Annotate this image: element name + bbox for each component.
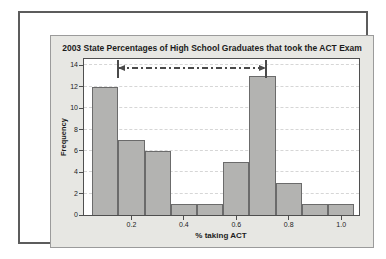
y-tick-label: 2: [57, 190, 78, 198]
y-tick-mark: [79, 193, 83, 194]
x-tick-label: 0.4: [169, 221, 199, 229]
histogram-bar: [197, 204, 223, 215]
annotation-arrowhead-left: [118, 65, 125, 71]
gridline: [84, 129, 359, 130]
histogram-bar: [302, 204, 328, 215]
histogram-bar: [276, 183, 302, 215]
screenshot-canvas: 2003 State Percentages of High School Gr…: [0, 0, 386, 259]
x-axis-label: % taking ACT: [195, 231, 246, 240]
y-tick-label: 10: [57, 104, 78, 112]
y-tick-label: 0: [57, 211, 78, 219]
histogram-bar: [328, 204, 354, 215]
histogram-bar: [118, 140, 144, 215]
annotation-arrow-line: [118, 67, 266, 69]
chart-title: 2003 State Percentages of High School Gr…: [51, 43, 373, 53]
histogram-bar: [223, 162, 249, 215]
x-tick-mark: [236, 216, 237, 220]
x-tick-mark: [288, 216, 289, 220]
histogram-bar: [249, 76, 275, 215]
annotation-arrowhead-right: [259, 65, 266, 71]
y-tick-mark: [79, 86, 83, 87]
histogram-bar: [171, 204, 197, 215]
plot-area: [83, 58, 360, 216]
y-tick-mark: [79, 150, 83, 151]
figure-outer-border: 2003 State Percentages of High School Gr…: [18, 11, 368, 244]
y-tick-mark: [79, 129, 83, 130]
x-tick-label: 1.0: [326, 221, 356, 229]
x-tick-label: 0.2: [116, 221, 146, 229]
y-tick-label: 14: [57, 61, 78, 69]
x-tick-mark: [341, 216, 342, 220]
y-tick-mark: [79, 108, 83, 109]
chart-panel: 2003 State Percentages of High School Gr…: [50, 35, 374, 248]
histogram-bar: [145, 151, 171, 215]
histogram-bar: [92, 87, 118, 215]
x-tick-label: 0.8: [274, 221, 304, 229]
x-tick-label: 0.6: [221, 221, 251, 229]
y-tick-label: 4: [57, 168, 78, 176]
x-tick-mark: [131, 216, 132, 220]
gridline: [84, 86, 359, 87]
y-tick-mark: [79, 172, 83, 173]
y-tick-mark: [79, 215, 83, 216]
y-tick-label: 12: [57, 83, 78, 91]
gridline: [84, 107, 359, 108]
x-tick-mark: [183, 216, 184, 220]
y-tick-label: 8: [57, 126, 78, 134]
y-tick-mark: [79, 65, 83, 66]
y-tick-label: 6: [57, 147, 78, 155]
